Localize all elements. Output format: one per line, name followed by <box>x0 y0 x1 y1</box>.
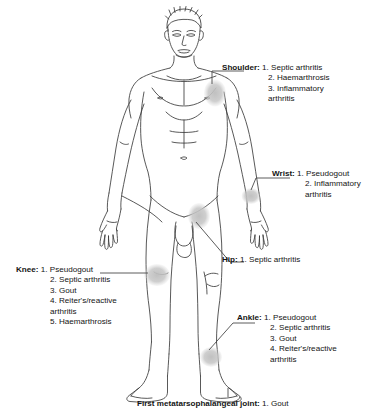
wrist-item-2: 2. Inflammatory <box>305 179 361 189</box>
annotation-wrist: Wrist: 1. Pseudogout 2. Inflammatory art… <box>272 169 361 200</box>
marker-wrist <box>242 188 261 204</box>
knee-label: Knee: <box>16 265 39 274</box>
ankle-item-2: 2. Septic arthritis <box>270 323 337 333</box>
hip-item-1: 1. Septic arthritis <box>240 255 300 264</box>
shoulder-label: Shoulder: <box>222 63 260 72</box>
annotation-shoulder: Shoulder: 1. Septic arthritis 2. Haemart… <box>222 63 330 105</box>
marker-knee <box>144 264 170 286</box>
ankle-item-1: 1. Pseudogout <box>264 313 316 322</box>
wrist-item-2-cont: arthritis <box>305 190 361 200</box>
knee-item-4-cont: arthritis <box>50 307 117 317</box>
wrist-item-1: 1. Pseudogout <box>297 169 349 178</box>
annotation-first-mtp-joint: First metatarsophalangeal joint: 1. Gout <box>137 399 289 409</box>
anatomical-diagram: Shoulder: 1. Septic arthritis 2. Haemart… <box>0 0 378 418</box>
shoulder-item-3-cont: arthritis <box>268 94 330 104</box>
shoulder-item-1: 1. Septic arthritis <box>262 63 322 72</box>
hip-label: Hip: <box>222 255 238 264</box>
knee-item-1: 1. Pseudogout <box>41 265 93 274</box>
ankle-item-4: 4. Reiter's/reactive <box>270 344 337 354</box>
shoulder-item-3: 3. Inflammatory <box>268 84 330 94</box>
knee-item-4: 4. Reiter's/reactive <box>50 296 117 306</box>
wrist-label: Wrist: <box>272 169 295 178</box>
annotation-knee: Knee: 1. Pseudogout 2. Septic arthritis … <box>16 265 117 327</box>
shoulder-item-2: 2. Haemarthrosis <box>268 73 330 83</box>
annotation-hip: Hip: 1. Septic arthritis <box>222 255 300 265</box>
marker-ankle <box>200 347 222 367</box>
annotation-ankle: Ankle: 1. Pseudogout 2. Septic arthritis… <box>237 313 337 365</box>
mtp-label: First metatarsophalangeal joint: <box>137 399 260 408</box>
ankle-label: Ankle: <box>237 313 262 322</box>
knee-item-5: 5. Haemarthrosis <box>50 317 117 327</box>
ankle-item-3: 3. Gout <box>270 334 337 344</box>
knee-item-3: 3. Gout <box>50 286 117 296</box>
knee-item-2: 2. Septic arthritis <box>50 275 117 285</box>
mtp-item-1: 1. Gout <box>262 399 289 408</box>
ankle-item-4-cont: arthritis <box>270 355 337 365</box>
